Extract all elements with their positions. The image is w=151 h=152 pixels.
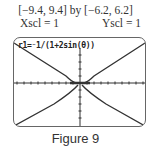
- figure-caption: Figure 9: [0, 131, 151, 146]
- lower-left-branch: [14, 85, 78, 126]
- window-range: [−9.4, 9.4] by [−6.2, 6.2]: [0, 4, 151, 17]
- lower-right-branch: [82, 85, 145, 126]
- polar-plot: [14, 38, 145, 126]
- yscl-label: Yscl = 1: [102, 17, 141, 30]
- equation-label: r1=⁻1/(1+2sin(θ)): [18, 41, 95, 50]
- calculator-screen: r1=⁻1/(1+2sin(θ)): [13, 37, 146, 127]
- xscl-label: Xscl = 1: [20, 17, 59, 30]
